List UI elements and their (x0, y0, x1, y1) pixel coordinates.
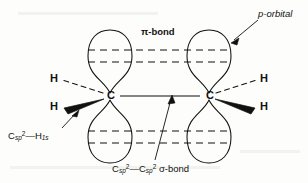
bond-c-h-dashed-upper-right (216, 80, 257, 93)
label-p-orbital: p-orbital (258, 8, 292, 19)
leader-c-c-sigma (155, 95, 175, 160)
atom-label-hydrogen-bottom-left: H (50, 100, 58, 112)
label-c-c-sigma-c1: C (112, 163, 119, 174)
label-c-c-sigma-dash: — (129, 163, 139, 174)
label-c-h-sigma-sub2: 1s (42, 134, 49, 141)
atom-label-carbon-left: C (107, 89, 115, 101)
label-c-c-sigma-tail: σ-bond (159, 163, 189, 174)
atom-label-hydrogen-bottom-right: H (260, 100, 268, 112)
bond-c-h-wedge-lower-right (215, 99, 255, 114)
label-c-c-sigma-sub1: sp (119, 167, 126, 174)
label-c-c-sigma-sub2: sp (146, 167, 153, 174)
label-c-c-sigma-c2: C (139, 163, 146, 174)
label-c-h-sigma-dash: — (25, 130, 35, 141)
label-c-c-sigma: Csp2—Csp2 σ-bond (112, 163, 189, 174)
label-c-h-sigma: Csp2—H1s (8, 130, 49, 141)
bond-c-h-dashed-upper-left (62, 80, 103, 93)
label-c-h-sigma-sub: sp (15, 134, 22, 141)
atom-label-hydrogen-top-left: H (50, 72, 58, 84)
label-pi-bond: π-bond (141, 26, 175, 37)
label-c-h-sigma-c: C (8, 130, 15, 141)
atom-label-hydrogen-top-right: H (260, 72, 268, 84)
diagram-canvas: C C H H H H p-orbital π-bond Csp2—H1s Cs… (0, 0, 308, 183)
label-c-c-sigma-sup2: 2 (153, 163, 157, 170)
leader-p-orbital (231, 20, 258, 45)
bond-c-h-wedge-lower-left (64, 99, 104, 114)
atom-label-carbon-right: C (206, 89, 214, 101)
label-c-h-sigma-h: H (35, 130, 42, 141)
